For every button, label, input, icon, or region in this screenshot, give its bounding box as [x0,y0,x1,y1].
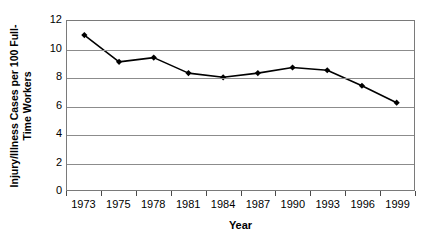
series-polyline [84,35,396,103]
data-point-marker [185,70,191,76]
x-axis-tick-mark [241,191,242,196]
y-axis-title-line-2: Time Workers [21,25,34,188]
y-axis-title: Injury/Illness Cases per 100 Full- Time … [2,20,40,192]
data-point-marker [151,55,157,61]
data-point-marker [324,67,330,73]
x-axis-title: Year [66,219,415,231]
data-point-marker [289,64,295,70]
gridline [67,50,414,51]
y-axis-tick-label: 8 [38,71,62,82]
y-axis-tick-labels: 024681012 [38,20,62,191]
y-axis-tick-label: 0 [38,185,62,196]
chart-container: Injury/Illness Cases per 100 Full- Time … [0,0,429,246]
x-axis-tick-mark [206,191,207,196]
y-axis-tick-label: 2 [38,157,62,168]
y-axis-tick-label: 12 [38,14,62,25]
data-point-marker [359,83,365,89]
x-axis-tick-mark [66,191,67,196]
x-axis-tick-label: 1999 [376,198,420,211]
data-point-marker [394,100,400,106]
x-axis-tick-mark [380,191,381,196]
y-axis-tick-label: 4 [38,128,62,139]
y-axis-tick-label: 6 [38,100,62,111]
x-axis-tick-marks [66,191,415,197]
x-axis-tick-labels: 1973197519781981198419871990199319961999 [66,198,415,214]
x-axis-tick-mark [310,191,311,196]
gridline [67,135,414,136]
x-axis-tick-mark [275,191,276,196]
x-axis-tick-mark [345,191,346,196]
x-axis-tick-mark [171,191,172,196]
gridline [67,164,414,165]
y-axis-tick-label: 10 [38,43,62,54]
x-axis-tick-mark [136,191,137,196]
x-axis-tick-mark [101,191,102,196]
plot-area [66,20,415,191]
data-point-marker [255,70,261,76]
x-axis-tick-mark [415,191,416,196]
gridline [67,78,414,79]
y-axis-title-line-1: Injury/Illness Cases per 100 Full- [8,25,21,188]
gridline [67,107,414,108]
